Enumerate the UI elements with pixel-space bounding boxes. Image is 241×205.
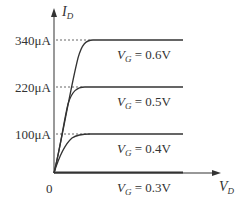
curve-label-vg-0.6: VG = 0.6V	[117, 48, 171, 61]
tick-340: 340μA	[15, 34, 51, 47]
origin-label: 0	[46, 182, 53, 195]
x-axis-label: VD	[219, 180, 234, 193]
tick-220: 220μA	[15, 81, 51, 94]
tick-100: 100μA	[15, 128, 51, 141]
y-axis-label: ID	[62, 5, 73, 18]
y-axis-arrow-icon	[51, 8, 57, 17]
curve-label-vg-0.5: VG = 0.5V	[117, 95, 171, 108]
x-axis-arrow-icon	[212, 170, 221, 176]
curve-label-vg-0.4: VG = 0.4V	[117, 142, 171, 155]
curve-label-vg-0.3: VG = 0.3V	[117, 181, 171, 194]
